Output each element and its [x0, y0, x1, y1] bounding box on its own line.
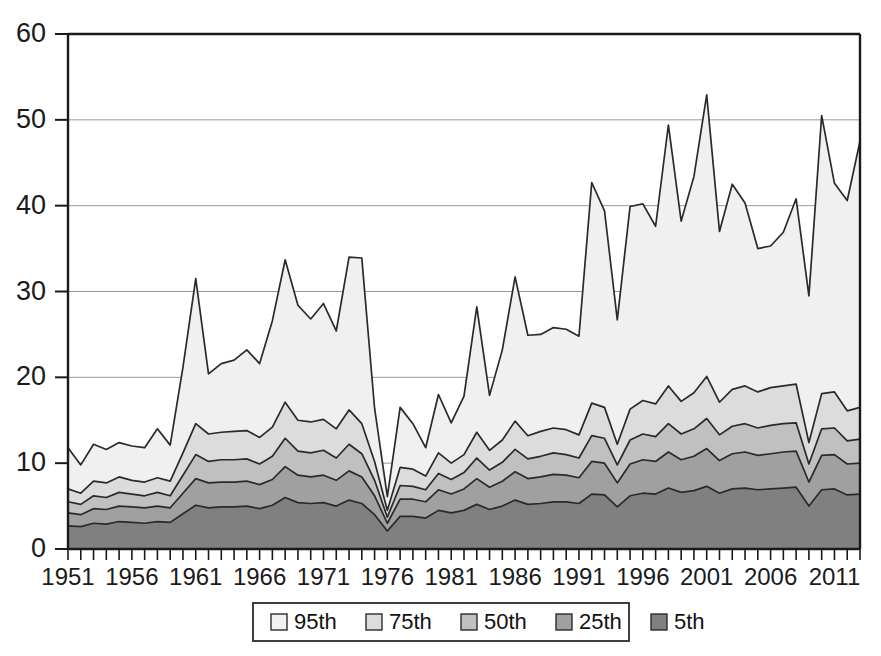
x-tick-label: 1991: [552, 563, 605, 590]
legend-swatch-25th[interactable]: [556, 614, 572, 630]
y-axis-ticks: [55, 34, 68, 549]
x-axis-tick-labels: 1951195619611966197119761981198619911996…: [41, 563, 860, 590]
chart-legend: 95th75th50th25th5th: [253, 603, 705, 641]
legend-label-95th[interactable]: 95th: [294, 609, 337, 634]
y-tick-label: 50: [16, 104, 46, 134]
y-tick-label: 20: [16, 361, 46, 391]
legend-swatch-75th[interactable]: [366, 614, 382, 630]
area-bands: [68, 95, 860, 549]
legend-swatch-95th[interactable]: [271, 614, 287, 630]
y-tick-label: 40: [16, 190, 46, 220]
x-tick-label: 2006: [744, 563, 797, 590]
y-tick-label: 30: [16, 276, 46, 306]
y-tick-label: 60: [16, 18, 46, 48]
legend-swatch-50th[interactable]: [461, 614, 477, 630]
y-tick-label: 10: [16, 447, 46, 477]
chart-container: 0102030405060 19511956196119661971197619…: [0, 0, 881, 656]
y-tick-label: 0: [31, 533, 46, 563]
x-axis-ticks: [68, 549, 860, 560]
legend-label-25th[interactable]: 25th: [579, 609, 622, 634]
y-axis-tick-labels: 0102030405060: [16, 18, 46, 563]
x-tick-label: 1961: [169, 563, 222, 590]
x-tick-label: 1976: [361, 563, 414, 590]
x-tick-label: 1986: [488, 563, 541, 590]
x-tick-label: 1996: [616, 563, 669, 590]
x-tick-label: 1951: [41, 563, 94, 590]
legend-label-50th[interactable]: 50th: [484, 609, 527, 634]
x-tick-label: 1956: [105, 563, 158, 590]
x-tick-label: 2011: [809, 563, 861, 590]
x-tick-label: 1971: [297, 563, 350, 590]
x-tick-label: 1981: [425, 563, 478, 590]
legend-label-5th[interactable]: 5th: [674, 609, 705, 634]
x-tick-label: 2001: [680, 563, 733, 590]
percentile-area-chart: 0102030405060 19511956196119661971197619…: [0, 0, 881, 656]
legend-label-75th[interactable]: 75th: [389, 609, 432, 634]
x-tick-label: 1966: [233, 563, 286, 590]
legend-swatch-5th[interactable]: [651, 614, 667, 630]
